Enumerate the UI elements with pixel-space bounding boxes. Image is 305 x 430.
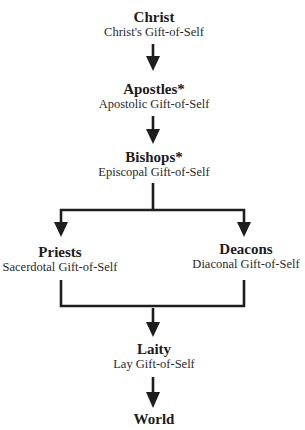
node-subtitle: Episcopal Gift-of-Self [98,165,209,180]
node-bishops: Bishops* Episcopal Gift-of-Self [98,149,209,180]
node-subtitle: Diaconal Gift-of-Self [192,257,299,272]
merge-connector-laity [61,280,244,337]
node-apostles: Apostles* Apostolic Gift-of-Self [99,81,210,112]
node-title: Christ [104,9,204,25]
node-subtitle: Apostolic Gift-of-Self [99,97,210,112]
node-subtitle: Sacerdotal Gift-of-Self [3,260,118,275]
node-priests: Priests Sacerdotal Gift-of-Self [3,244,118,275]
node-subtitle: Lay Gift-of-Self [113,357,195,372]
node-title: Priests [3,244,118,260]
split-connector-bishops [54,183,251,237]
node-title: World [134,411,175,427]
arrow-apostles-to-bishops [146,116,160,144]
node-title: Laity [113,341,195,357]
node-christ: Christ Christ's Gift-of-Self [104,9,204,40]
node-title: Apostles* [99,81,210,97]
node-world: World [134,411,175,427]
arrow-laity-to-world [146,377,160,408]
node-subtitle: Christ's Gift-of-Self [104,25,204,40]
node-deacons: Deacons Diaconal Gift-of-Self [192,241,299,272]
arrow-christ-to-apostles [146,44,160,71]
node-laity: Laity Lay Gift-of-Self [113,341,195,372]
node-title: Bishops* [98,149,209,165]
node-title: Deacons [192,241,299,257]
